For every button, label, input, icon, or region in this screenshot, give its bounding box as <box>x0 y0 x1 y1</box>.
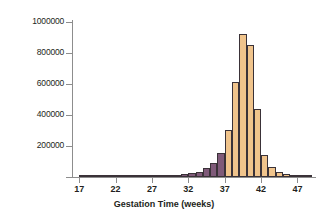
histogram-bar <box>116 175 123 177</box>
histogram-bar <box>297 175 304 177</box>
x-tick-label: 27 <box>147 184 157 194</box>
histogram-bar <box>94 175 101 177</box>
histogram-bar <box>239 34 246 177</box>
x-tick-mark <box>188 178 189 183</box>
x-tick-mark <box>297 178 298 183</box>
y-tick-label: 1000000 <box>0 16 64 26</box>
histogram-bar <box>79 175 86 177</box>
y-tick-label: 200000 <box>0 140 64 150</box>
histogram-bar <box>181 174 188 177</box>
histogram-bar <box>261 155 268 177</box>
x-tick-mark <box>261 178 262 183</box>
x-tick-label: 37 <box>220 184 230 194</box>
histogram-bar <box>87 175 94 177</box>
histogram-bar <box>203 168 210 177</box>
x-tick-mark <box>79 178 80 183</box>
x-tick-label: 17 <box>74 184 84 194</box>
histogram-bar <box>268 167 275 177</box>
histogram-bar <box>210 163 217 177</box>
x-axis-title: Gestation Time (weeks) <box>0 199 328 209</box>
x-axis-line <box>72 177 316 178</box>
x-tick-label: 47 <box>292 184 302 194</box>
histogram-bar <box>254 109 261 177</box>
x-tick-label: 42 <box>256 184 266 194</box>
x-tick-label: 22 <box>111 184 121 194</box>
histogram-bar <box>159 175 166 177</box>
histogram-bar <box>232 82 239 177</box>
histogram-bar <box>188 173 195 177</box>
x-tick-mark <box>116 178 117 183</box>
histogram-bar <box>167 175 174 177</box>
plot-area <box>72 22 312 177</box>
histogram-bar <box>101 175 108 177</box>
histogram-bar <box>225 130 232 177</box>
histogram-bar <box>145 175 152 177</box>
histogram-bar <box>174 175 181 177</box>
histogram-bar <box>305 175 312 177</box>
histogram-bar <box>283 174 290 177</box>
histogram-bar <box>196 172 203 177</box>
y-tick-label: 600000 <box>0 78 64 88</box>
histogram-bar <box>152 175 159 177</box>
histogram-bar <box>137 175 144 177</box>
histogram-bar <box>290 175 297 177</box>
histogram-bar <box>130 175 137 177</box>
y-tick-label: 400000 <box>0 109 64 119</box>
histogram-bar <box>108 175 115 177</box>
x-tick-mark <box>152 178 153 183</box>
histogram-bar <box>217 153 224 177</box>
x-tick-mark <box>225 178 226 183</box>
x-tick-label: 32 <box>183 184 193 194</box>
gestation-time-histogram: Births 2000004000006000008000001000000 1… <box>0 0 328 221</box>
histogram-bar <box>247 45 254 177</box>
y-tick-mark-zero <box>66 177 73 178</box>
y-tick-label: 800000 <box>0 47 64 57</box>
histogram-bar <box>123 175 130 177</box>
histogram-bar <box>276 172 283 177</box>
